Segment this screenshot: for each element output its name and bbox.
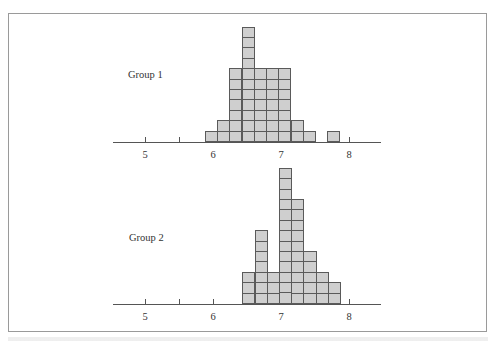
unit-square [291, 293, 304, 304]
x-tick [213, 299, 214, 304]
histogram-column [291, 200, 304, 304]
unit-square [303, 293, 316, 304]
group-2-x-axis [113, 304, 381, 305]
histogram-column [316, 273, 329, 304]
unit-square [267, 293, 280, 304]
x-tick-label: 8 [339, 311, 359, 322]
figure-caption-clipped [8, 337, 488, 341]
histogram-column [328, 283, 341, 304]
x-tick [179, 299, 180, 304]
histogram-column [267, 273, 280, 304]
histogram-column [242, 273, 255, 304]
unit-square [316, 293, 329, 304]
x-tick [349, 299, 350, 304]
group-2-label: Group 2 [129, 232, 164, 243]
x-tick [145, 299, 146, 304]
unit-square [328, 293, 341, 304]
unit-square [242, 293, 255, 304]
x-tick-label: 5 [135, 311, 155, 322]
group-2-panel: Group 2 5678 [0, 0, 497, 341]
x-tick-label: 7 [271, 311, 291, 322]
histogram-column [303, 252, 316, 304]
x-tick-label: 6 [203, 311, 223, 322]
